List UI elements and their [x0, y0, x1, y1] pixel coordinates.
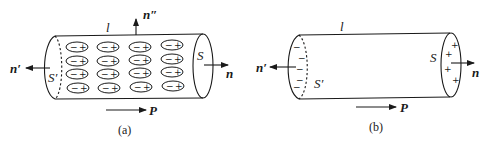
pos-sign: + [111, 83, 119, 93]
pos-sign: + [174, 67, 182, 77]
neg-sign: − [101, 42, 109, 52]
neg-sign: − [101, 69, 109, 79]
pos-sign: + [174, 54, 182, 64]
pos-sign: + [110, 69, 118, 79]
pos-sign: + [79, 42, 87, 52]
normal-label-right: n [226, 66, 233, 81]
neg-sign: − [133, 42, 141, 52]
neg-charge: − [293, 82, 301, 92]
pos-sign: + [143, 82, 151, 92]
neg-sign: − [166, 81, 174, 91]
figure-caption-b: (b) [369, 120, 383, 134]
surface-label-left: S′ [314, 76, 324, 91]
normal-label-right: n [472, 65, 479, 80]
pos-sign: + [110, 56, 118, 66]
polarization-label: P [400, 100, 409, 115]
surface-label-left: S′ [48, 70, 58, 85]
figure-b: − − − − − + + + + l n′ n S′ S [256, 19, 479, 134]
neg-sign: − [134, 82, 142, 92]
dipole-signs: − + − + − + − + − + − + − + − + − + − + [70, 40, 183, 93]
length-label: l [106, 20, 110, 35]
neg-sign: − [70, 69, 78, 79]
pos-sign: + [142, 55, 150, 65]
pos-charge: + [445, 49, 453, 59]
cylinder-a-top-edge [55, 34, 203, 36]
normal-label-left: n′ [256, 60, 267, 75]
neg-sign: − [102, 83, 110, 93]
cylinder-a-right-face [193, 34, 213, 98]
polarized-cylinder-diagram: − + − + − + − + − + − + − + − + − + − + [0, 0, 485, 143]
pos-sign: + [110, 42, 118, 52]
cylinder-a-left-rim-hidden [55, 36, 62, 99]
length-label: l [340, 19, 344, 34]
normal-label-left: n′ [10, 61, 21, 76]
neg-sign: − [70, 56, 78, 66]
neg-sign: − [133, 68, 141, 78]
neg-sign: − [71, 83, 79, 93]
pos-charge: + [444, 64, 452, 74]
pos-sign: + [174, 40, 182, 50]
neg-sign: − [70, 42, 78, 52]
figure-a: − + − + − + − + − + − + − + − + − + − + [10, 7, 233, 137]
cylinder-b-top-edge [299, 33, 450, 35]
neg-sign: − [101, 56, 109, 66]
surface-label-right: S [197, 48, 204, 63]
surface-label-right: S [430, 50, 437, 65]
neg-sign: − [165, 40, 173, 50]
cylinder-a-bottom-edge [55, 98, 203, 99]
pos-sign: + [79, 56, 87, 66]
cylinder-b-bottom-edge [299, 97, 450, 99]
pos-sign: + [175, 81, 183, 91]
neg-sign: − [165, 54, 173, 64]
pos-sign: + [79, 69, 87, 79]
neg-sign: − [133, 55, 141, 65]
pos-sign: + [142, 42, 150, 52]
pos-sign: + [142, 68, 150, 78]
neg-charge: − [296, 64, 304, 74]
figure-caption-a: (a) [118, 123, 131, 137]
neg-sign: − [165, 67, 173, 77]
polarization-label: P [149, 103, 158, 118]
normal-label-top: n″ [143, 7, 157, 22]
neg-charge: − [293, 42, 301, 52]
pos-charge: + [452, 75, 460, 85]
neg-charge: − [298, 53, 306, 63]
pos-sign: + [80, 83, 88, 93]
